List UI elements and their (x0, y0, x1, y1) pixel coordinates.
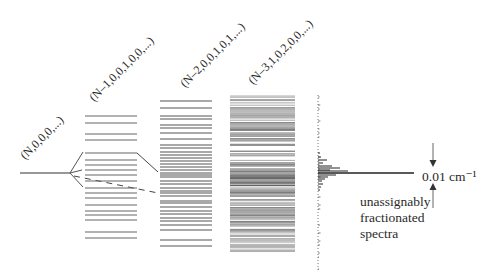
coupling-line-lower (70, 173, 83, 187)
fractionated-spectrum (318, 95, 414, 272)
note-line-2: fractionated (360, 210, 425, 225)
tier-1-levels (85, 116, 137, 238)
state-label-1: (N–1,0,0,1,0,0,...) (86, 34, 156, 104)
note-line-3: spectra (360, 226, 398, 241)
note-line-1: unassignably (360, 194, 431, 209)
bright-state (20, 152, 158, 193)
arrow-up-icon (430, 183, 437, 190)
tier-coupling-line (137, 153, 158, 172)
linewidth-label: 0.01 cm⁻¹ (422, 169, 477, 184)
state-label-0: (N,0,0,0,...) (17, 113, 66, 162)
tier-3-levels (230, 96, 295, 251)
arrow-down-icon (430, 160, 437, 167)
dashed-coupling-line (74, 176, 158, 193)
state-label-2: (N–2,0,0,1,0,1,...) (177, 20, 247, 90)
tier-2-levels (160, 101, 212, 246)
ivr-tier-diagram: (N,0,0,0,...) (N–1,0,0,1,0,0,...) (N–2,0… (0, 0, 485, 278)
state-label-3: (N–3,1,0,2,0,0,...) (245, 17, 315, 87)
